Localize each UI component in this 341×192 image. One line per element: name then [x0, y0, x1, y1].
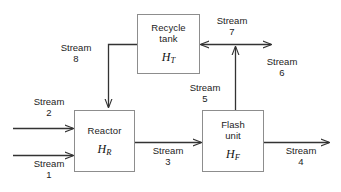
stream-3-label: Stream 3	[139, 145, 197, 167]
stream-8-arrow	[109, 45, 138, 108]
stream-1-word: Stream	[34, 158, 65, 169]
stream-7-label: Stream 7	[203, 15, 261, 37]
stream-1-label: Stream 1	[20, 158, 78, 180]
stream-7-number: 7	[203, 26, 261, 37]
stream-8-number: 8	[47, 53, 105, 64]
stream-2-word: Stream	[34, 96, 65, 107]
stream-5-number: 5	[176, 93, 234, 104]
unit-reactor-line1: Reactor	[88, 125, 122, 136]
enthalpy-symbol: H	[98, 142, 107, 156]
enthalpy-subscript: F	[235, 152, 240, 162]
stream-8-word: Stream	[61, 42, 92, 53]
unit-flash-unit-line2: unit	[225, 130, 241, 141]
unit-flash-unit-line1: Flash	[221, 119, 245, 130]
unit-recycle-tank: Recycle tank HT	[137, 14, 200, 74]
stream-3-number: 3	[139, 156, 197, 167]
unit-flash-unit-label: Flash unit	[221, 119, 245, 141]
stream-8-label: Stream 8	[47, 42, 105, 64]
unit-recycle-tank-label: Recycle tank	[151, 22, 186, 44]
stream-4-word: Stream	[286, 145, 317, 156]
stream-6-label: Stream 6	[253, 56, 311, 78]
unit-recycle-tank-line1: Recycle	[151, 22, 186, 33]
unit-reactor-label: Reactor	[88, 125, 122, 136]
stream-5-label: Stream 5	[176, 82, 234, 104]
stream-1-number: 1	[20, 169, 78, 180]
stream-7-word: Stream	[217, 15, 248, 26]
process-flow-diagram: Recycle tank HT Reactor HR Flash unit HF…	[0, 0, 341, 192]
stream-4-number: 4	[272, 156, 330, 167]
enthalpy-subscript: T	[170, 55, 175, 65]
unit-flash-unit: Flash unit HF	[202, 110, 264, 172]
unit-recycle-tank-enthalpy: HT	[162, 51, 175, 66]
stream-2-label: Stream 2	[20, 96, 78, 118]
enthalpy-subscript: R	[106, 146, 111, 156]
unit-reactor-enthalpy: HR	[98, 143, 112, 158]
unit-reactor: Reactor HR	[74, 110, 135, 172]
stream-6-number: 6	[253, 67, 311, 78]
stream-3-word: Stream	[153, 145, 184, 156]
stream-6-word: Stream	[267, 56, 298, 67]
unit-recycle-tank-line2: tank	[159, 33, 177, 44]
stream-5-word: Stream	[190, 82, 221, 93]
unit-flash-unit-enthalpy: HF	[226, 148, 240, 163]
stream-4-label: Stream 4	[272, 145, 330, 167]
stream-2-number: 2	[20, 107, 78, 118]
enthalpy-symbol: H	[226, 147, 235, 161]
